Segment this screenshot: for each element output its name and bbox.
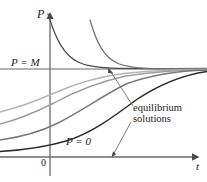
equilibrium-label-p-equals-m: P = M <box>11 57 40 69</box>
plot-canvas <box>0 0 207 182</box>
callout-label-equilibrium-solutions: equilibrium solutions <box>133 102 182 124</box>
curve-decaying-solution-inner <box>90 20 207 69</box>
callout-label-line-1: equilibrium <box>133 102 182 113</box>
origin-label: 0 <box>41 158 46 169</box>
p-axis-arrowhead <box>46 12 53 19</box>
callout-leader-to-p-equals-0 <box>113 122 131 155</box>
logistic-solution-curves-figure: P t P = M P = 0 0 equilibrium solutions <box>0 0 207 182</box>
equilibrium-label-p-equals-zero: P = 0 <box>66 136 91 148</box>
callout-label-line-2: solutions <box>133 113 182 124</box>
axis-label-p: P <box>37 8 44 21</box>
curve-decaying-solution-outer <box>48 14 207 69</box>
axis-label-t: t <box>196 161 199 173</box>
